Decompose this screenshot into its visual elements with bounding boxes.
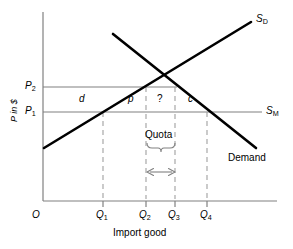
curve-sd-subscript: D	[263, 17, 268, 26]
curve-sd-base: S	[256, 13, 263, 24]
x-tick-q1-subscript: 1	[104, 213, 108, 222]
demand-curve	[113, 34, 256, 148]
supply-demand-quota-figure: P in $ P2 P1 O Q1 Q2 Q3 Q4 Import good S…	[0, 0, 293, 249]
quota-brace	[147, 143, 175, 152]
x-tick-label-q3: Q3	[168, 210, 180, 221]
area-label-c: c	[188, 94, 193, 104]
quota-span-arrow	[147, 169, 175, 176]
y-tick-p2-subscript: 2	[32, 84, 36, 93]
x-tick-q1-base: Q	[96, 209, 104, 220]
curve-label-sd: SD	[256, 14, 268, 25]
area-label-d: d	[79, 94, 85, 104]
x-axis-label: Import good	[113, 228, 166, 238]
x-tick-label-q2: Q2	[139, 210, 151, 221]
y-tick-label-p2: P2	[25, 81, 36, 92]
curve-label-demand: Demand	[228, 153, 266, 163]
x-tick-q4-base: Q	[200, 209, 208, 220]
x-tick-q3-subscript: 3	[176, 213, 180, 222]
curve-label-sm: SM	[266, 106, 279, 117]
curve-sm-subscript: M	[273, 109, 279, 118]
y-tick-p2-base: P	[25, 80, 32, 91]
y-tick-p1-base: P	[25, 105, 32, 116]
x-tick-label-q4: Q4	[200, 210, 212, 221]
curve-sm-base: S	[266, 105, 273, 116]
x-tick-label-q1: Q1	[96, 210, 108, 221]
quota-label: Quota	[145, 130, 172, 140]
origin-label: O	[32, 210, 40, 220]
x-tick-q2-subscript: 2	[147, 213, 151, 222]
area-label-unknown: ?	[157, 94, 163, 104]
area-label-p: p	[128, 94, 134, 104]
y-axis-label: P in $	[10, 99, 19, 122]
x-tick-q3-base: Q	[168, 209, 176, 220]
x-tick-q2-base: Q	[139, 209, 147, 220]
x-tick-q4-subscript: 4	[208, 213, 212, 222]
y-tick-p1-subscript: 1	[32, 109, 36, 118]
y-tick-label-p1: P1	[25, 106, 36, 117]
